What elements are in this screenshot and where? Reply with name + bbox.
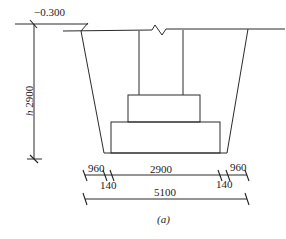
excavation-pit [81, 29, 248, 153]
column [139, 30, 183, 95]
dim-140-right: 140 [216, 179, 233, 190]
ground-line [63, 23, 285, 35]
diagram-canvas: −0.300 h 2900 960 140 2900 140 960 5100 … [0, 0, 286, 239]
section-drawing [0, 0, 286, 239]
dim-960-left: 960 [88, 163, 105, 174]
elevation-label: −0.300 [34, 7, 65, 18]
depth-label: h 2900 [24, 86, 35, 116]
figure-caption: (a) [157, 214, 170, 225]
footing [111, 95, 220, 153]
footing-lower-step [111, 122, 220, 153]
elevation-marker [15, 20, 88, 28]
dim-140-left: 140 [100, 180, 117, 191]
depth-symbol: h [23, 111, 35, 117]
footing-upper-step [128, 95, 200, 122]
depth-value: 2900 [23, 86, 35, 108]
dim-5100: 5100 [154, 187, 176, 198]
dim-2900: 2900 [150, 164, 172, 175]
dim-960-right: 960 [230, 162, 247, 173]
